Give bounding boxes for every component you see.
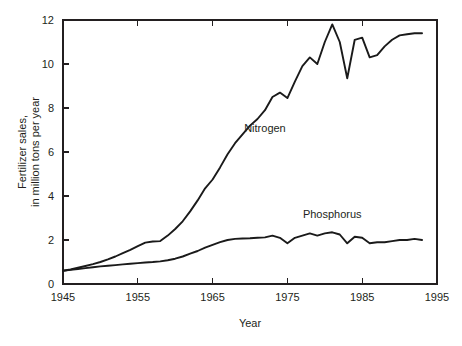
y-axis-title-line1: Fertilizer sales, [16,115,28,189]
y-tick-label-6: 6 [48,146,54,158]
y-tick-label-2: 2 [48,234,54,246]
y-tick-label-10: 10 [42,58,54,70]
series-label-phosphorus: Phosphorus [303,208,362,220]
x-axis-title: Year [239,317,262,329]
x-tick-label-1975: 1975 [275,291,299,303]
x-tick-label-1985: 1985 [350,291,374,303]
fertilizer-sales-line-chart: 194519551965197519851995 024681012 Nitro… [0,0,462,346]
x-tick-label-1995: 1995 [425,291,449,303]
y-axis-title-line2: in million tons per year [29,97,41,207]
chart-figure: 194519551965197519851995 024681012 Nitro… [0,0,462,346]
series-label-nitrogen: Nitrogen [244,122,286,134]
y-tick-label-0: 0 [48,278,54,290]
y-tick-label-8: 8 [48,102,54,114]
x-tick-label-1955: 1955 [126,291,150,303]
x-tick-label-1945: 1945 [51,291,75,303]
y-tick-label-4: 4 [48,190,54,202]
x-tick-label-1965: 1965 [200,291,224,303]
y-tick-label-12: 12 [42,14,54,26]
